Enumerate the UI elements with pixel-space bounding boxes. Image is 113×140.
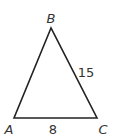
- triangle-diagram: B A C 15 8: [0, 0, 113, 140]
- vertex-label-b: B: [47, 11, 56, 26]
- side-label-bc: 15: [78, 65, 95, 80]
- vertex-label-a: A: [4, 122, 14, 137]
- side-label-ac: 8: [49, 122, 57, 137]
- vertex-label-c: C: [98, 122, 108, 137]
